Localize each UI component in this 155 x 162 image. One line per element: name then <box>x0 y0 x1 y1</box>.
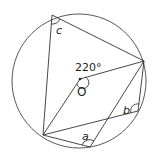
angle-c-label: c <box>56 24 62 37</box>
center-point <box>79 78 82 81</box>
angle-b-label: b <box>123 104 130 117</box>
angle-220-label: 220° <box>75 61 102 74</box>
chord-c-l <box>43 15 52 135</box>
circle-theorem-diagram: 220° O c b a <box>0 0 155 162</box>
center-label: O <box>77 85 86 99</box>
angle-a-label: a <box>82 130 89 143</box>
